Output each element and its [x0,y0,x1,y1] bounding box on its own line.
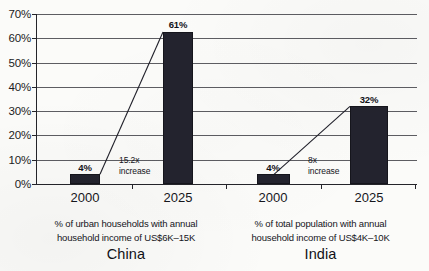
bar-value-china-2000: 4% [78,162,92,173]
caption-india-line2: household income of US$4K–10K [224,231,417,245]
gridline-50 [36,63,417,64]
plot-area: 70% 60% 50% 40% 30% 20% 10% 0% 4% 61% 15… [36,14,417,184]
gridline-40 [36,87,417,88]
y-axis-label-50: 50% [9,57,31,69]
annotation-india-multiplier: 8x [308,155,317,165]
y-tick-30 [32,111,37,112]
y-axis-label-40: 40% [9,81,31,93]
bar-china-2025 [163,32,193,184]
growth-comparison-chart: 70% 60% 50% 40% 30% 20% 10% 0% 4% 61% 15… [0,0,429,271]
caption-china: % of urban households with annual househ… [33,217,219,245]
bar-value-india-2025: 32% [360,94,379,105]
group-name-china: China [33,246,219,262]
y-tick-70 [32,14,37,15]
y-tick-50 [32,63,37,64]
y-axis-label-70: 70% [9,8,31,20]
y-axis-label-60: 60% [9,32,31,44]
x-label-china-2000: 2000 [71,190,100,205]
caption-india-line1: % of total population with annual [224,217,417,231]
x-tick-right-end [415,184,416,189]
y-axis-label-20: 20% [9,129,31,141]
bar-india-2000 [257,174,290,184]
y-axis-label-10: 10% [9,154,31,166]
bar-china-2000 [70,174,100,184]
x-label-india-2025: 2025 [355,190,384,205]
x-label-china-2025: 2025 [164,190,193,205]
x-label-india-2000: 2000 [259,190,288,205]
y-tick-40 [32,87,37,88]
gridline-70 [36,14,417,15]
connector-line-china [100,32,163,174]
x-tick-group-divider [226,184,227,189]
x-tick-china-mid [132,184,133,189]
y-tick-20 [32,135,37,136]
bar-value-india-2000: 4% [266,162,280,173]
y-tick-0 [32,184,37,185]
annotation-india-word: increase [308,166,339,177]
bar-india-2025 [350,106,388,184]
y-tick-60 [32,38,37,39]
annotation-china-multiplier: 15.2x [119,155,139,165]
bar-value-china-2025: 61% [169,19,188,30]
caption-china-line2: household income of US$6K–15K [33,231,219,245]
annotation-india-increase: 8x increase [308,155,339,178]
group-name-india: India [224,246,417,262]
annotation-china-word: increase [119,166,150,177]
caption-china-line1: % of urban households with annual [33,217,219,231]
x-tick-india-mid [321,184,322,189]
y-axis-line [36,14,37,184]
y-axis-label-0: 0% [15,178,31,190]
gridline-60 [36,38,417,39]
y-tick-10 [32,160,37,161]
caption-india: % of total population with annual househ… [224,217,417,245]
annotation-china-increase: 15.2x increase [119,155,150,178]
y-axis-label-30: 30% [9,105,31,117]
